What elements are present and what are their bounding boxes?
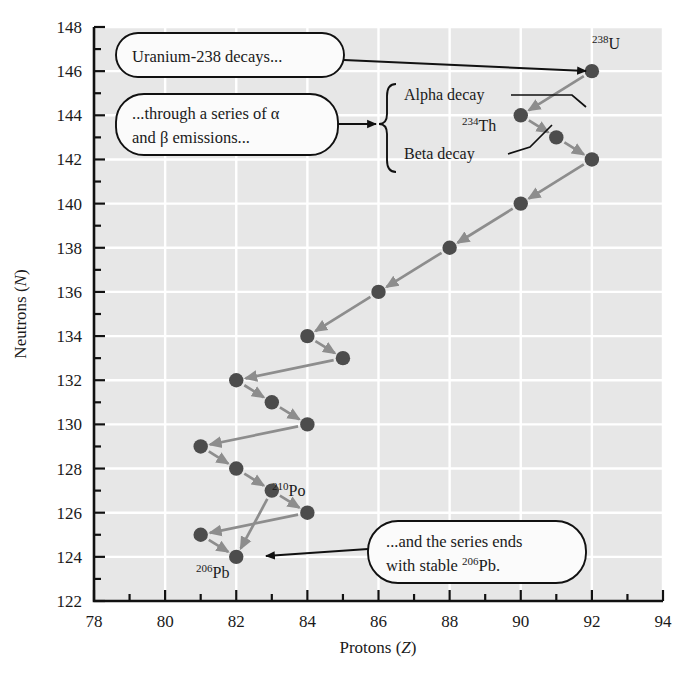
y-tick-label: 122 [57, 592, 83, 611]
x-tick-label: 90 [512, 612, 529, 631]
x-tick-label: 94 [655, 612, 673, 631]
nuclide-point [300, 505, 314, 519]
x-tick-label: 80 [157, 612, 174, 631]
alpha-decay-label: Alpha decay [404, 86, 484, 104]
po210-mass: 210 [272, 480, 289, 492]
callout-middle-line1: ...through a series of α [132, 104, 280, 123]
x-tick-label: 82 [228, 612, 245, 631]
x-tick-labels: 788082848688909294 [86, 612, 673, 631]
nuclide-point [300, 329, 314, 343]
nuclide-point [371, 285, 385, 299]
nuclide-point [549, 130, 563, 144]
chart-canvas: 788082848688909294 122124126128130132134… [0, 0, 694, 676]
y-axis-title: Neutrons (N) [11, 269, 30, 358]
nuclide-point [300, 417, 314, 431]
nuclide-point [229, 550, 243, 564]
nuclide-point [193, 528, 207, 542]
nuclide-point [585, 152, 599, 166]
y-tick-label: 124 [57, 548, 83, 567]
x-tick-label: 86 [370, 612, 387, 631]
y-axis-title-main: Neutrons ( [11, 286, 30, 359]
callout-end-line2: with stable [386, 556, 462, 575]
svg-text:with stable 206Pb.: with stable 206Pb. [386, 555, 500, 575]
y-tick-label: 138 [57, 239, 83, 258]
pb206-mass: 206 [196, 562, 213, 574]
nuclide-point [442, 241, 456, 255]
y-tick-label: 128 [57, 460, 83, 479]
x-axis-title-main: Protons ( [339, 638, 401, 657]
decay-series-chart: 788082848688909294 122124126128130132134… [0, 0, 694, 676]
nuclide-point [336, 351, 350, 365]
callout-end-line1: ...and the series ends [386, 532, 523, 551]
y-tick-labels: 1221241261281301321341361381401421441461… [57, 18, 83, 611]
beta-decay-label: Beta decay [404, 145, 475, 163]
y-tick-label: 130 [57, 415, 83, 434]
callout-start-text: Uranium-238 decays... [132, 47, 282, 66]
nuclide-point [229, 373, 243, 387]
y-tick-label: 140 [57, 195, 83, 214]
callout-middle[interactable]: ...through a series of α and β emissions… [116, 94, 338, 155]
y-tick-label: 148 [57, 18, 83, 37]
y-tick-label: 136 [57, 283, 83, 302]
y-tick-label: 126 [57, 504, 83, 523]
y-tick-label: 134 [57, 327, 83, 346]
u238-mass: 238 [592, 33, 609, 45]
po210-symbol: Po [289, 482, 306, 499]
callout-end[interactable]: ...and the series ends with stable 206Pb… [368, 521, 586, 583]
x-tick-label: 78 [86, 612, 103, 631]
callout-end-symbol: Pb. [479, 556, 501, 575]
y-axis-title-close: ) [11, 269, 30, 275]
nuclide-point [514, 196, 528, 210]
nuclide-point [585, 64, 599, 78]
nuclide-point [229, 461, 243, 475]
x-tick-label: 92 [583, 612, 600, 631]
th234-symbol: Th [479, 117, 497, 134]
x-tick-label: 84 [299, 612, 317, 631]
nuclide-point [265, 395, 279, 409]
y-tick-label: 142 [57, 150, 83, 169]
u238-symbol: U [609, 35, 621, 52]
y-tick-label: 144 [57, 106, 83, 125]
nuclide-point [514, 108, 528, 122]
pb206-symbol: Pb [213, 564, 230, 581]
y-tick-label: 132 [57, 371, 83, 390]
x-axis-title-close: ) [411, 638, 417, 657]
callout-middle-line2: and β emissions... [132, 128, 250, 147]
th234-mass: 234 [462, 115, 479, 127]
nuclide-point [193, 439, 207, 453]
callout-start[interactable]: Uranium-238 decays... [116, 33, 344, 77]
x-axis-title: Protons (Z) [339, 638, 416, 657]
y-tick-label: 146 [57, 62, 83, 81]
x-tick-label: 88 [441, 612, 458, 631]
callout-end-sup: 206 [462, 555, 479, 567]
